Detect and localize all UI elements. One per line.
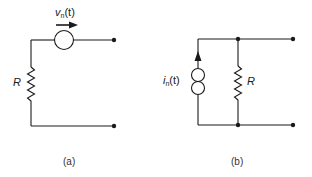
terminal-a-bottom: [112, 124, 116, 128]
terminal-a-top: [112, 38, 116, 42]
voltage-source-label: vn(t): [55, 6, 75, 19]
resistor-b-label: R: [247, 75, 255, 87]
caption-b: (b): [231, 156, 243, 167]
terminal-b-top: [291, 37, 295, 41]
current-source-label: in(t): [163, 74, 180, 87]
resistor-b-icon: [235, 66, 242, 102]
junction-b-bottom: [236, 123, 240, 127]
current-source-icon-upper: [192, 69, 205, 82]
terminal-b-bottom: [291, 123, 295, 127]
noise-equivalent-circuits: R vn(t) (a) in(t) R (b): [0, 0, 312, 177]
circuit-a: [28, 25, 115, 126]
voltage-arrow-icon: [69, 22, 78, 29]
junction-b-top: [236, 37, 240, 41]
current-arrow-icon: [195, 51, 202, 61]
resistor-a-icon: [28, 67, 35, 103]
circuit-b: [192, 39, 294, 125]
caption-a: (a): [63, 156, 75, 167]
current-source-icon-lower: [192, 82, 205, 95]
voltage-source-icon: [55, 31, 74, 50]
resistor-a-label: R: [13, 76, 21, 88]
